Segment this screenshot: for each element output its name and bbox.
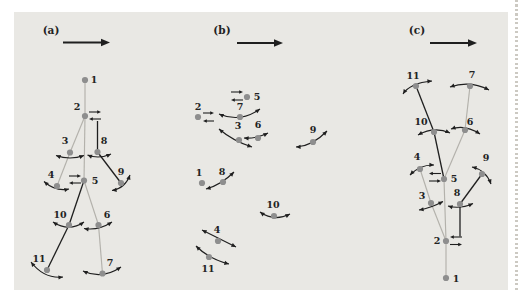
node-dot-c-6 <box>462 127 468 133</box>
node-label-c-10: 10 <box>414 116 428 127</box>
node-label-b-3: 3 <box>235 120 242 131</box>
node-dot-b-10 <box>271 213 277 219</box>
node-label-b-10: 10 <box>266 199 280 210</box>
node-label-c-5: 5 <box>451 173 458 184</box>
panel-label-b: (b) <box>213 24 230 36</box>
node-label-c-9: 9 <box>483 152 490 163</box>
node-dot-a-3 <box>67 149 73 155</box>
node-label-b-2: 2 <box>195 101 202 112</box>
node-dot-c-2 <box>443 238 449 244</box>
node-dot-c-9 <box>479 171 485 177</box>
node-label-a-9: 9 <box>118 166 125 177</box>
node-label-c-7: 7 <box>469 69 476 80</box>
node-label-a-10: 10 <box>53 209 67 220</box>
node-dot-b-1 <box>199 180 205 186</box>
node-label-c-8: 8 <box>454 187 461 198</box>
node-label-a-6: 6 <box>104 209 111 220</box>
node-label-b-8: 8 <box>219 166 226 177</box>
node-label-b-9: 9 <box>310 124 317 135</box>
node-label-c-4: 4 <box>414 151 421 162</box>
node-dot-c-10 <box>431 129 437 135</box>
page-edge-dots <box>515 0 518 291</box>
node-dot-c-5 <box>441 176 447 182</box>
figure-background <box>14 12 508 290</box>
diagram-canvas: (a)1234567891011(b)1234567891011(c)12345… <box>0 0 523 303</box>
node-label-c-2: 2 <box>434 235 441 246</box>
node-label-a-4: 4 <box>48 169 55 180</box>
node-label-b-1: 1 <box>196 167 203 178</box>
panel-label-c: (c) <box>409 24 425 36</box>
node-label-b-4: 4 <box>214 224 221 235</box>
node-dot-b-3 <box>236 137 242 143</box>
node-label-c-11: 11 <box>406 70 419 81</box>
node-dot-b-9 <box>310 139 316 145</box>
node-dot-a-10 <box>66 222 72 228</box>
node-dot-b-11 <box>206 254 212 260</box>
node-dot-a-5 <box>81 177 87 183</box>
node-dot-c-7 <box>467 83 473 89</box>
node-label-b-5: 5 <box>254 91 261 102</box>
node-label-a-3: 3 <box>62 135 69 146</box>
node-label-b-6: 6 <box>255 119 262 130</box>
panel-label-a: (a) <box>43 24 60 36</box>
node-label-c-3: 3 <box>419 190 426 201</box>
node-dot-c-3 <box>428 200 434 206</box>
node-dot-a-4 <box>54 183 60 189</box>
node-dot-b-7 <box>237 114 243 120</box>
figure-page: (a)1234567891011(b)1234567891011(c)12345… <box>0 0 523 303</box>
node-dot-a-8 <box>94 149 100 155</box>
node-label-c-6: 6 <box>467 116 474 127</box>
node-dot-b-5 <box>244 94 250 100</box>
node-label-a-2: 2 <box>74 101 81 112</box>
node-dot-c-1 <box>443 275 449 281</box>
node-dot-b-6 <box>255 135 261 141</box>
node-dot-a-2 <box>82 113 88 119</box>
node-dot-c-11 <box>413 83 419 89</box>
node-label-c-1: 1 <box>453 273 460 284</box>
node-dot-a-11 <box>44 267 50 273</box>
node-dot-b-2 <box>195 114 201 120</box>
node-label-a-1: 1 <box>91 74 98 85</box>
node-label-b-11: 11 <box>201 263 214 274</box>
node-label-a-11: 11 <box>32 253 45 264</box>
node-dot-b-4 <box>215 238 221 244</box>
node-dot-a-1 <box>82 77 88 83</box>
node-dot-c-8 <box>457 201 463 207</box>
node-dot-a-9 <box>118 180 124 186</box>
node-dot-b-8 <box>220 179 226 185</box>
node-dot-a-6 <box>95 222 101 228</box>
node-label-a-7: 7 <box>107 257 114 268</box>
node-label-a-5: 5 <box>92 175 99 186</box>
node-dot-a-7 <box>99 270 105 276</box>
node-dot-c-4 <box>417 166 423 172</box>
node-label-a-8: 8 <box>101 135 108 146</box>
node-label-b-7: 7 <box>237 101 244 112</box>
